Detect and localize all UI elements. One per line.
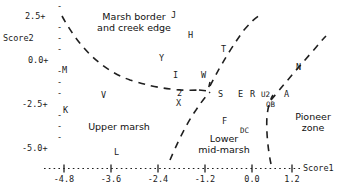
y-tick-minor--3.75: - — [57, 122, 62, 130]
x-tick-label--3.6: -3.6 — [97, 175, 125, 184]
point-label-W: W — [201, 71, 206, 80]
point-label-L: L — [114, 148, 119, 157]
y-tick-minor-1.9: - — [57, 23, 62, 31]
x-tick-label--4.8: -4.8 — [50, 175, 78, 184]
y-tick-major-0.0: 0.0+ — [28, 56, 48, 64]
x-tick-label--1.2: -1.2 — [191, 175, 219, 184]
point-label-U2: U2 — [261, 90, 270, 99]
y-tick-minor--3.1: - — [57, 111, 62, 119]
ordination-scatter-plot: - 2.5+ - - - 0.0+ - - - -2.5+ - - - -5.0… — [0, 0, 344, 192]
marsh-border-upper-arm — [210, 15, 260, 86]
marsh-border-line-2: and creek edge — [73, 22, 195, 33]
point-label-E: E — [238, 90, 243, 99]
x-axis-title: Score1 — [303, 164, 334, 173]
point-label-A: A — [284, 90, 289, 99]
y-axis-title: Score2 — [3, 34, 34, 43]
pioneer-zone-line-2: zone — [282, 122, 344, 133]
x-tick-label-0.0: 0.0 — [239, 175, 265, 184]
y-tick-major--5.0: -5.0+ — [22, 144, 48, 152]
y-tick-minor-3.1: - — [57, 2, 62, 10]
annotation-lower-mid-marsh: Lower mid-marsh — [182, 133, 266, 155]
point-label-T: T — [221, 45, 226, 54]
point-label-2: 2 — [177, 89, 182, 98]
point-label-N: N — [296, 63, 301, 72]
marsh-border-connector — [199, 82, 210, 91]
point-label-X: X — [176, 99, 181, 108]
point-label-S: S — [218, 90, 223, 99]
pioneer-zone-line-1: Pioneer — [282, 111, 344, 122]
y-tick-major--2.5: -2.5+ — [22, 100, 48, 108]
point-label-I: I — [173, 71, 178, 80]
point-label-F: F — [222, 117, 227, 126]
annotation-pioneer-zone: Pioneer zone — [282, 111, 344, 133]
y-tick-minor--1.25: - — [57, 78, 62, 86]
y-tick-major-2.5: 2.5+ — [25, 12, 45, 20]
x-tick-label-1.2: 1.2 — [279, 175, 305, 184]
annotation-upper-marsh: Upper marsh — [67, 121, 171, 132]
point-label-R: R — [250, 90, 255, 99]
y-tick-minor--4.4: - — [57, 133, 62, 141]
point-label-OB: OB — [266, 100, 275, 109]
marsh-border-line-1: Marsh border — [73, 11, 195, 22]
point-label-K: K — [63, 106, 68, 115]
lower-mid-marsh-line-2: mid-marsh — [182, 144, 266, 155]
point-label-Y: Y — [159, 54, 164, 63]
point-label-V: V — [101, 91, 106, 100]
y-tick-minor-0.6: - — [57, 45, 62, 53]
x-tick-label--2.4: -2.4 — [144, 175, 172, 184]
lower-mid-marsh-line-1: Lower — [182, 133, 266, 144]
annotation-marsh-border-and-creek-edge: Marsh border and creek edge — [73, 11, 195, 33]
point-label-M: M — [62, 66, 67, 75]
y-tick-minor--1.9: - — [57, 89, 62, 97]
y-tick-minor-1.25: - — [57, 34, 62, 42]
